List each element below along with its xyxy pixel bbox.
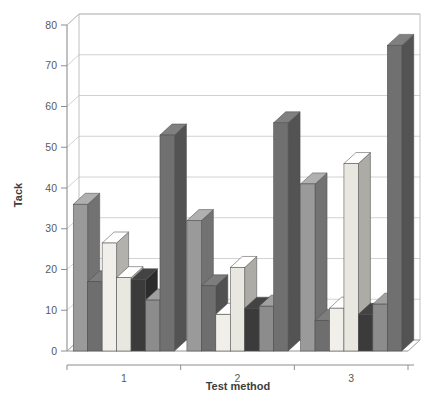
y-axis-title: Tack <box>12 182 24 207</box>
y-tick-label: 80 <box>45 19 57 31</box>
bars-group <box>73 34 413 351</box>
x-tick-label: 3 <box>348 372 354 384</box>
chart-canvas: 01020304050607080 123 Tack Test method <box>0 0 424 399</box>
y-tick-label: 30 <box>45 222 57 234</box>
bar <box>274 112 300 351</box>
y-tick-label: 20 <box>45 263 57 275</box>
y-tick-label: 60 <box>45 100 57 112</box>
bar <box>160 124 186 351</box>
x-axis-title: Test method <box>206 380 271 392</box>
bar-chart: 01020304050607080 123 Tack Test method <box>0 0 424 399</box>
y-tick-label: 70 <box>45 59 57 71</box>
y-tick-label: 40 <box>45 182 57 194</box>
x-tick-label: 1 <box>121 372 127 384</box>
y-tick-label: 0 <box>51 345 57 357</box>
y-tick-labels: 01020304050607080 <box>45 19 57 357</box>
bar <box>387 34 413 351</box>
y-tick-label: 10 <box>45 304 57 316</box>
y-tick-label: 50 <box>45 141 57 153</box>
